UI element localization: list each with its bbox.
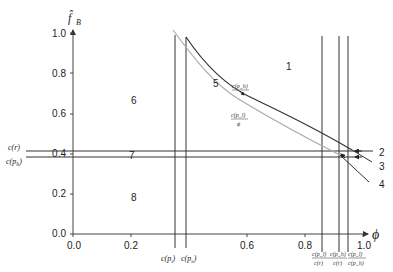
x-axis: 0.0 0.2 0.6 0.8 1.0 ϕ bbox=[67, 227, 379, 251]
y-tick-1: 0.2 bbox=[52, 188, 66, 199]
c-pl-bottom-label: c(pl) bbox=[161, 254, 176, 264]
y-axis-label: f̂ bbox=[68, 10, 73, 25]
x-tick-4: 1.0 bbox=[357, 240, 371, 251]
region-8-label: 8 bbox=[131, 192, 137, 203]
svg-text:c(p_l): c(p_l) bbox=[231, 112, 245, 119]
region-3-label: 3 bbox=[379, 161, 385, 172]
y-tick-4: 0.8 bbox=[52, 68, 66, 79]
y-axis-label-sub: B bbox=[76, 18, 81, 27]
region-1-label: 1 bbox=[286, 61, 292, 72]
frac-c-ph-over-c-r: c(p_h) c(r) bbox=[330, 251, 347, 267]
svg-text:ϕ: ϕ bbox=[237, 121, 240, 127]
region-7-label: 7 bbox=[129, 150, 135, 161]
svg-text:c(p_l): c(p_l) bbox=[348, 251, 362, 258]
y-tick-3: 0.6 bbox=[52, 108, 66, 119]
region-4-label: 4 bbox=[379, 179, 385, 190]
svg-text:c(p_h): c(p_h) bbox=[330, 251, 346, 258]
x-tick-3: 0.8 bbox=[298, 240, 312, 251]
svg-text:c(p_h): c(p_h) bbox=[348, 260, 364, 267]
svg-text:c(p_l): c(p_l) bbox=[312, 251, 326, 258]
x-tick-1: 0.2 bbox=[124, 240, 138, 251]
y-tick-5: 1.0 bbox=[52, 28, 66, 39]
svg-text:c(r): c(r) bbox=[314, 260, 323, 267]
x-axis-label: ϕ bbox=[372, 227, 379, 242]
c-ph-bottom-label: c(ph) bbox=[181, 254, 197, 264]
dark-curve-c-ph-over-phi bbox=[186, 37, 352, 150]
y-axis: 0.0 0.2 0.4 0.6 0.8 1.0 f̂ B bbox=[52, 10, 81, 239]
line-to-region-3 bbox=[352, 150, 372, 162]
frac-c-pl-over-c-ph: c(p_l) c(p_h) bbox=[348, 251, 366, 267]
curve-label-lower: c(p_l) ϕ bbox=[231, 112, 248, 127]
diagram-canvas: 0.0 0.2 0.4 0.6 0.8 1.0 f̂ B 0.0 0.2 0.6… bbox=[0, 0, 393, 272]
vertical-lines bbox=[175, 35, 348, 252]
c-r-label: c(r) bbox=[8, 143, 20, 152]
light-curve-c-pl-over-phi bbox=[173, 30, 340, 155]
y-tick-0: 0.0 bbox=[52, 228, 66, 239]
x-tick-0: 0.0 bbox=[67, 240, 81, 251]
svg-text:c(p_h): c(p_h) bbox=[232, 83, 248, 90]
region-5-label: 5 bbox=[213, 78, 219, 89]
region-6-label: 6 bbox=[131, 95, 137, 106]
curve-label-upper: c(p_h) bbox=[232, 83, 249, 90]
region-2-label: 2 bbox=[379, 147, 385, 158]
line-to-region-4 bbox=[340, 155, 369, 182]
c-ph-label: c(ph) bbox=[6, 157, 22, 167]
x-tick-2: 0.6 bbox=[240, 240, 254, 251]
svg-text:c(r): c(r) bbox=[333, 260, 342, 267]
frac-c-pl-over-c-r: c(p_l) c(r) bbox=[312, 251, 330, 267]
